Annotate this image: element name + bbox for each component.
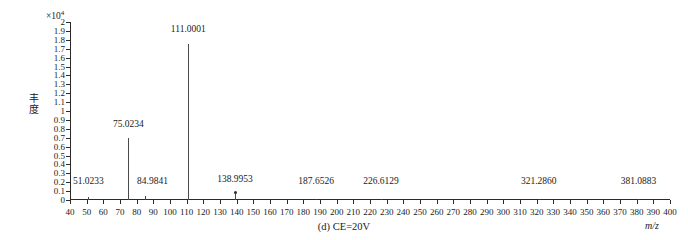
x-axis-tick-mark bbox=[220, 200, 221, 204]
figure-caption: (d) CE=20V bbox=[0, 221, 688, 232]
x-axis-tick-label: 280 bbox=[463, 208, 477, 217]
x-axis-tick-label: 160 bbox=[263, 208, 277, 217]
peak-marker-dot bbox=[234, 191, 237, 194]
x-axis-tick-mark bbox=[170, 200, 171, 204]
y-axis-tick-mark bbox=[66, 84, 70, 85]
x-axis-tick-mark bbox=[387, 200, 388, 204]
x-axis-tick-label: 40 bbox=[66, 208, 75, 217]
x-axis-tick-label: 140 bbox=[230, 208, 244, 217]
peak-label: 75.0234 bbox=[113, 119, 144, 129]
x-axis-tick-label: 110 bbox=[180, 208, 193, 217]
y-axis-tick-label: 1.6 bbox=[54, 53, 65, 62]
x-axis-tick-mark bbox=[653, 200, 654, 204]
x-axis-tick-mark bbox=[287, 200, 288, 204]
y-axis-tick-label: 2 bbox=[61, 18, 66, 27]
spectrum-peak bbox=[539, 199, 540, 200]
x-axis-tick-label: 260 bbox=[430, 208, 444, 217]
spectrum-peak bbox=[128, 138, 129, 200]
y-axis-tick-mark bbox=[66, 138, 70, 139]
peak-label: 84.9841 bbox=[137, 176, 168, 186]
x-axis-tick-label: 300 bbox=[497, 208, 511, 217]
x-axis-tick-label: 270 bbox=[447, 208, 461, 217]
x-axis-tick-mark bbox=[637, 200, 638, 204]
y-axis-tick-label: 1 bbox=[61, 107, 66, 116]
spectrum-peak bbox=[638, 199, 639, 200]
x-axis-tick-label: 100 bbox=[163, 208, 177, 217]
spectrum-peak bbox=[381, 199, 382, 200]
x-axis-tick-label: 150 bbox=[247, 208, 261, 217]
peak-label: 111.0001 bbox=[171, 24, 206, 34]
y-axis-tick-mark bbox=[66, 182, 70, 183]
y-axis-tick-label: 0.6 bbox=[54, 142, 65, 151]
x-axis-tick-label: 380 bbox=[630, 208, 644, 217]
x-axis-tick-mark bbox=[153, 200, 154, 204]
x-axis-tick-mark bbox=[537, 200, 538, 204]
x-axis-tick-label: 310 bbox=[513, 208, 527, 217]
y-axis-tick-mark bbox=[66, 191, 70, 192]
x-axis-tick-mark bbox=[270, 200, 271, 204]
y-axis-tick-mark bbox=[66, 93, 70, 94]
x-axis-tick-mark bbox=[370, 200, 371, 204]
x-axis-tick-mark bbox=[320, 200, 321, 204]
x-axis-tick-mark bbox=[487, 200, 488, 204]
x-axis-tick-label: 250 bbox=[413, 208, 427, 217]
mass-spectrum-figure: ×104 丰 度 00.10.20.30.40.50.60.70.80.911.… bbox=[0, 0, 688, 240]
y-axis-line bbox=[70, 22, 71, 200]
x-axis-tick-label: 120 bbox=[197, 208, 211, 217]
x-axis-tick-mark bbox=[453, 200, 454, 204]
y-axis-tick-mark bbox=[66, 164, 70, 165]
y-axis-tick-mark bbox=[66, 156, 70, 157]
peak-label: 51.0233 bbox=[73, 176, 104, 186]
y-axis-tick-label: 0.3 bbox=[54, 169, 65, 178]
y-axis-tick-mark bbox=[66, 120, 70, 121]
y-axis-tick-label: 0.1 bbox=[54, 187, 65, 196]
x-axis-tick-label: 50 bbox=[82, 208, 91, 217]
y-axis-tick-label: 0.8 bbox=[54, 124, 65, 133]
x-axis-tick-label: 340 bbox=[563, 208, 577, 217]
spectrum-peak bbox=[145, 196, 146, 200]
plot-area: 00.10.20.30.40.50.60.70.80.911.11.21.31.… bbox=[70, 22, 670, 200]
x-axis-tick-label: 60 bbox=[99, 208, 108, 217]
x-axis-tick-mark bbox=[420, 200, 421, 204]
x-axis-tick-mark bbox=[70, 200, 71, 204]
x-axis-tick-label: 190 bbox=[313, 208, 327, 217]
x-axis-tick-label: 390 bbox=[647, 208, 661, 217]
y-axis-tick-label: 1.1 bbox=[54, 98, 65, 107]
x-axis-tick-mark bbox=[603, 200, 604, 204]
y-axis-tick-mark bbox=[66, 67, 70, 68]
y-axis-tick-label: 1.5 bbox=[54, 62, 65, 71]
y-axis-tick-label: 1.3 bbox=[54, 80, 65, 89]
spectrum-peak bbox=[235, 194, 236, 200]
x-axis-tick-mark bbox=[237, 200, 238, 204]
x-axis-tick-mark bbox=[503, 200, 504, 204]
peak-label: 226.6129 bbox=[363, 176, 399, 186]
x-axis-tick-label: 130 bbox=[213, 208, 227, 217]
x-axis-tick-mark bbox=[620, 200, 621, 204]
x-axis-tick-mark bbox=[103, 200, 104, 204]
x-axis-tick-label: 320 bbox=[530, 208, 544, 217]
x-axis-tick-label: 70 bbox=[116, 208, 125, 217]
y-axis-tick-label: 1.9 bbox=[54, 26, 65, 35]
x-axis-tick-mark bbox=[253, 200, 254, 204]
x-axis-tick-label: 80 bbox=[132, 208, 141, 217]
x-axis-tick-label: 220 bbox=[363, 208, 377, 217]
x-axis-tick-label: 350 bbox=[580, 208, 594, 217]
peak-label: 321.2860 bbox=[521, 176, 557, 186]
y-axis-tick-mark bbox=[66, 22, 70, 23]
y-axis-tick-label: 0.9 bbox=[54, 115, 65, 124]
y-axis-tick-label: 1.4 bbox=[54, 71, 65, 80]
y-axis-tick-label: 0.7 bbox=[54, 133, 65, 142]
y-axis-title: 丰 度 bbox=[27, 93, 41, 115]
x-axis-tick-label: 330 bbox=[547, 208, 561, 217]
x-axis-tick-label: 90 bbox=[149, 208, 158, 217]
x-axis-tick-label: 400 bbox=[663, 208, 677, 217]
x-axis-tick-mark bbox=[587, 200, 588, 204]
x-axis-tick-label: 170 bbox=[280, 208, 294, 217]
x-axis-tick-mark bbox=[203, 200, 204, 204]
x-axis-tick-label: 360 bbox=[597, 208, 611, 217]
x-axis-tick-mark bbox=[403, 200, 404, 204]
y-axis-tick-mark bbox=[66, 129, 70, 130]
y-axis-exponent-prefix: ×10 bbox=[46, 11, 61, 21]
x-axis-tick-mark bbox=[520, 200, 521, 204]
x-axis-tick-label: 240 bbox=[397, 208, 411, 217]
